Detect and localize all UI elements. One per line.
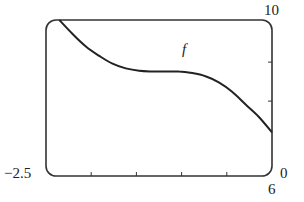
axis-ticks [91,62,272,176]
y-min-label: 0 [280,166,288,181]
curve-label-f: f [182,42,186,57]
y-max-label: 10 [264,3,279,18]
x-max-label: 6 [268,182,276,197]
chart-plot [0,0,304,202]
x-min-label: −2.5 [4,166,31,181]
function-curve-f [59,20,272,132]
